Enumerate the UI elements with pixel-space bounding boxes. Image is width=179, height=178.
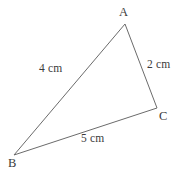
vertex-label-a: A [119, 6, 128, 19]
vertex-label-c: C [159, 110, 168, 123]
vertex-label-b: B [8, 157, 17, 170]
side-length-label-ab: 4 cm [39, 63, 62, 75]
triangle-outline [0, 0, 179, 178]
triangle-figure: A B C 4 cm 2 cm 5 cm [0, 0, 179, 178]
side-length-label-bc: 5 cm [81, 133, 104, 145]
side-length-label-ac: 2 cm [147, 59, 170, 71]
